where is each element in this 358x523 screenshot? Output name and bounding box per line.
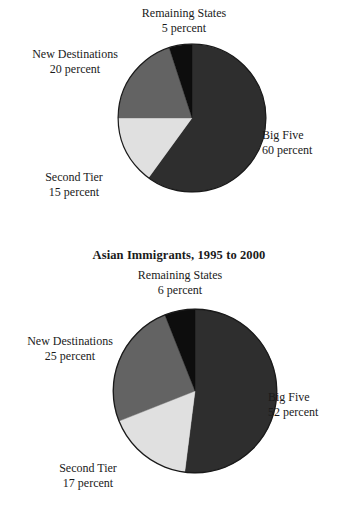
callout-remaining-states-bottom: Remaining States 6 percent bbox=[100, 268, 260, 299]
pie-graphic-bottom bbox=[112, 308, 278, 474]
callout-label: Big Five bbox=[268, 390, 358, 405]
callout-remaining-states-top: Remaining States 5 percent bbox=[104, 6, 264, 37]
callout-value: 17 percent bbox=[28, 476, 148, 491]
callout-value: 52 percent bbox=[268, 405, 358, 420]
callout-new-destinations-bottom: New Destinations 25 percent bbox=[0, 334, 140, 365]
pie-slice-big-five bbox=[185, 309, 277, 473]
callout-second-tier-top: Second Tier 15 percent bbox=[14, 170, 134, 201]
callout-label: Second Tier bbox=[14, 170, 134, 185]
callout-value: 25 percent bbox=[0, 349, 140, 364]
chart-title-bottom: Asian Immigrants, 1995 to 2000 bbox=[0, 248, 358, 263]
pie-chart-figure-bottom: Asian Immigrants, 1995 to 2000 Remaining… bbox=[0, 240, 358, 523]
pie-svg-bottom bbox=[112, 308, 278, 474]
pie-chart-figure-top: Remaining States 5 percent New Destinati… bbox=[0, 0, 358, 240]
callout-value: 20 percent bbox=[6, 62, 144, 77]
callout-label: Big Five bbox=[262, 128, 358, 143]
callout-label: New Destinations bbox=[0, 334, 140, 349]
callout-label: Second Tier bbox=[28, 461, 148, 476]
callout-big-five-top: Big Five 60 percent bbox=[262, 128, 358, 159]
callout-label: Remaining States bbox=[100, 268, 260, 283]
callout-value: 6 percent bbox=[100, 283, 260, 298]
callout-value: 60 percent bbox=[262, 143, 358, 158]
callout-label: New Destinations bbox=[6, 47, 144, 62]
callout-value: 5 percent bbox=[104, 21, 264, 36]
callout-value: 15 percent bbox=[14, 185, 134, 200]
callout-label: Remaining States bbox=[104, 6, 264, 21]
callout-new-destinations-top: New Destinations 20 percent bbox=[6, 47, 144, 78]
callout-second-tier-bottom: Second Tier 17 percent bbox=[28, 461, 148, 492]
callout-big-five-bottom: Big Five 52 percent bbox=[268, 390, 358, 421]
